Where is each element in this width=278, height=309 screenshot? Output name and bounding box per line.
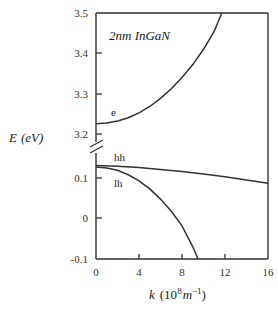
light-hole-band-curve — [96, 167, 198, 259]
x-tick-label: 4 — [136, 266, 142, 278]
x-tick-label: 0 — [93, 266, 99, 278]
x-tick-label: 8 — [179, 266, 185, 278]
y-tick-label: -0.1 — [71, 253, 88, 265]
y-ticks — [96, 53, 102, 218]
y-tick-label: 3.5 — [74, 7, 88, 19]
y-tick-label: 0.1 — [74, 172, 88, 184]
y-tick-label: 0 — [83, 212, 89, 224]
plot-frame — [96, 13, 268, 259]
x-axis-label: k(108m−1) — [149, 286, 206, 302]
x-ticks — [139, 254, 225, 259]
y-tick-label: 3.4 — [74, 47, 88, 59]
series-label-lh: lh — [114, 177, 123, 189]
y-axis-label: E(eV) — [8, 130, 43, 145]
x-tick-label: 12 — [220, 266, 231, 278]
series-label-hh: hh — [114, 151, 126, 163]
y-tick-label: 3.3 — [74, 88, 88, 100]
y-tick-label: 3.2 — [74, 128, 88, 140]
chart-title: 2nm InGaN — [109, 28, 171, 43]
series-label-e: e — [111, 106, 116, 118]
band-structure-chart: 3.5 3.4 3.3 3.2 0.1 0 -0.1 0 4 8 12 16 e… — [0, 0, 278, 309]
x-tick-label: 16 — [263, 266, 275, 278]
